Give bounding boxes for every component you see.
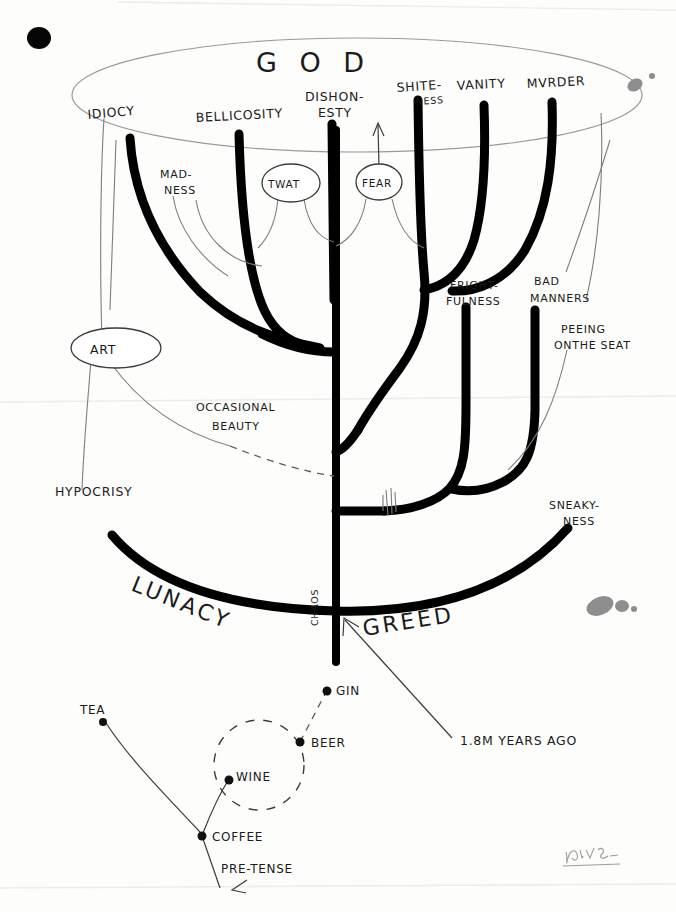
annotation-madness-line2: NESS [164,184,196,197]
drink-dashed-circle [214,720,304,810]
annotation-sneakyness-line1: SNEAKY- [549,499,600,512]
pencil-smudge-large [584,592,617,619]
leader-bad-manners [566,140,610,272]
branch-frightfulness [384,307,466,511]
fear-arrow-shaft [378,124,379,168]
annotation-sneakyness-line2: NESS [563,515,595,528]
base-label-chaos: CHAOS [309,589,320,626]
drink-label-beer: BEER [311,736,346,750]
edge-tea-coffee [106,723,200,832]
branch-shiteness [358,100,425,430]
drink-label-tea: TEA [79,703,105,717]
leader-art-to-hypocrisy [82,360,91,490]
annotation-peeing-line2: ONTHE SEAT [554,339,631,352]
annotation-madness-line1: MAD- [160,168,192,181]
diagram-canvas: G O D IDIOCY BELLICOSITY DISHON- ESTY SH… [0,0,676,912]
bubble-label-art: ART [90,342,116,357]
pencil-smudge-topright-small [649,73,655,79]
annotation-peeing-line1: PEEING [561,323,606,336]
drink-label-gin: GIN [336,684,360,698]
node-beer [296,738,305,747]
tip-label-bellicosity: BELLICOSITY [195,105,283,125]
leader-fear-left [336,199,366,246]
tip-label-dishonesty-line2: ESTY [318,105,352,120]
leader-twat-left [258,198,278,248]
signature-underline [563,864,620,866]
callout-label: 1.8M YEARS AGO [460,733,577,748]
node-tea [99,718,107,726]
drink-label-coffee: COFFEE [212,830,263,844]
leader-idiocy [101,118,104,340]
bubble-label-fear: FEAR [362,177,392,189]
leader-art-top [110,140,116,310]
branch-bellicosity-join [262,334,334,352]
tip-label-murder: MVRDER [526,73,585,91]
god-label: G O D [256,47,371,78]
tip-label-shiteness-line1: SHITE- [396,77,442,95]
pencil-smudge-medium [615,600,629,612]
annotation-bad-manners-line2: MANNERS [530,292,590,305]
annotation-frightfulness-line1: FRIGHT- [450,279,499,292]
tip-label-vanity: VANITY [456,75,506,93]
branch-vanity [424,105,485,290]
tree-drawing: G O D IDIOCY BELLICOSITY DISHON- ESTY SH… [0,0,676,912]
leader-occasional-beauty-dashed [230,446,334,476]
annotation-frightfulness-line2: FULNESS [446,295,501,308]
pencil-smudge-small [631,606,637,612]
paper-crease-bottom [0,884,676,888]
drink-label-wine: WINE [236,770,271,784]
signature-mark [566,848,618,863]
tip-label-dishonesty-line1: DISHON- [305,89,364,104]
ink-blob-icon [27,27,51,49]
edge-beer-gin [300,694,325,742]
tip-label-idiocy: IDIOCY [87,103,135,122]
bubble-label-twat: TWAT [267,178,300,190]
node-wine [225,776,234,785]
node-gin [323,687,332,696]
node-coffee [198,832,207,841]
branch-dishonesty [332,124,334,300]
callout-line [345,620,452,738]
edge-coffee-wine [203,779,229,833]
annotation-hypocrisy: HYPOCRISY [55,484,132,499]
paper-crease-top [118,2,676,10]
tip-label-shiteness-line2: NESS [415,94,444,107]
drink-label-pretense: PRE-TENSE [221,862,293,876]
annotation-bad-manners-line1: BAD [534,275,560,288]
annotation-occasional-beauty-line2: BEAUTY [212,420,260,433]
annotation-occasional-beauty-line1: OCCASIONAL [196,401,275,414]
